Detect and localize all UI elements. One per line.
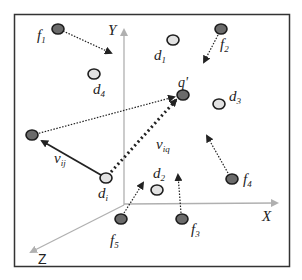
node-d1 [167,35,179,45]
vector-diagram: Y X Z f1 f2 f3 f4 f5 q' d1 d2 [0,0,302,280]
label-d4: d4 [93,81,106,99]
label-f4: f4 [243,171,252,189]
arrow-j-q [36,97,174,134]
node-f3 [176,214,188,224]
arrow-f1 [63,31,111,53]
node-d2 [151,185,163,195]
vector-v-ij [42,141,101,175]
label-f2: f2 [220,36,229,54]
node-j [26,130,38,140]
label-f3: f3 [191,221,200,239]
x-axis [124,203,277,204]
force-arrows [36,31,228,213]
node-di [100,173,112,183]
label-v-ij: vij [54,150,66,168]
node-f5 [115,214,127,224]
label-q: q' [178,75,189,90]
node-f1 [52,24,64,34]
arrow-f4 [207,136,228,173]
x-axis-label: X [261,208,272,224]
label-v-iq: viq [156,136,170,154]
node-f4 [226,174,238,184]
label-d3: d3 [229,88,242,106]
node-f2 [215,24,227,34]
label-f1: f1 [37,27,46,45]
arrow-f5 [124,183,143,213]
nodes [26,24,238,224]
node-labels: f1 f2 f3 f4 f5 q' d1 d2 d3 d4 di vij viq [37,27,252,250]
arrow-f2 [204,35,218,62]
node-d3 [213,99,225,109]
z-axis-label: Z [38,251,47,267]
label-d1: d1 [154,47,166,65]
diagram-frame [15,15,290,267]
label-di: di [98,185,109,203]
arrow-f3 [178,175,181,213]
node-d4 [88,69,100,79]
label-f5: f5 [110,232,119,250]
y-axis-label: Y [108,22,118,38]
node-q [177,90,189,100]
label-d2: d2 [153,165,166,183]
